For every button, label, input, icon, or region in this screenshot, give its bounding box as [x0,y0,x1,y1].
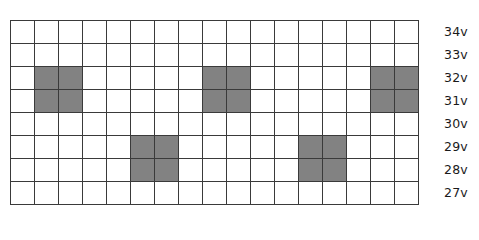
grid-cell-empty[interactable] [251,113,275,136]
grid-cell-empty[interactable] [59,113,83,136]
grid-cell-empty[interactable] [35,136,59,159]
grid-cell-filled[interactable] [59,90,83,113]
grid-cell-empty[interactable] [107,67,131,90]
grid-cell-empty[interactable] [83,113,107,136]
grid-cell-empty[interactable] [371,182,395,205]
grid-cell-filled[interactable] [59,67,83,90]
grid-cell-empty[interactable] [227,136,251,159]
grid-cell-filled[interactable] [299,159,323,182]
grid-cell-empty[interactable] [323,182,347,205]
grid-cell-empty[interactable] [59,21,83,44]
grid-cell-empty[interactable] [323,67,347,90]
grid-cell-empty[interactable] [323,113,347,136]
grid-cell-empty[interactable] [11,136,35,159]
grid-cell-empty[interactable] [35,159,59,182]
grid-cell-empty[interactable] [251,67,275,90]
grid-cell-empty[interactable] [179,159,203,182]
grid-cell-empty[interactable] [347,44,371,67]
grid-cell-empty[interactable] [107,44,131,67]
grid-cell-empty[interactable] [35,182,59,205]
grid-cell-empty[interactable] [83,136,107,159]
grid-cell-empty[interactable] [203,136,227,159]
grid-cell-filled[interactable] [323,136,347,159]
grid-cell-empty[interactable] [59,182,83,205]
grid-cell-empty[interactable] [395,113,419,136]
grid-cell-empty[interactable] [275,44,299,67]
grid-cell-empty[interactable] [155,44,179,67]
grid-cell-empty[interactable] [155,90,179,113]
grid-cell-empty[interactable] [395,182,419,205]
grid-cell-empty[interactable] [299,182,323,205]
grid-cell-filled[interactable] [395,67,419,90]
grid-cell-empty[interactable] [395,159,419,182]
grid-cell-empty[interactable] [227,182,251,205]
grid-cell-empty[interactable] [107,90,131,113]
grid-cell-empty[interactable] [251,136,275,159]
grid-cell-empty[interactable] [227,21,251,44]
grid-cell-empty[interactable] [203,182,227,205]
grid-cell-empty[interactable] [227,113,251,136]
grid-cell-empty[interactable] [347,136,371,159]
grid-cell-empty[interactable] [179,90,203,113]
grid-cell-empty[interactable] [275,136,299,159]
grid-cell-filled[interactable] [227,67,251,90]
grid-cell-empty[interactable] [11,67,35,90]
grid-cell-empty[interactable] [203,21,227,44]
grid-cell-empty[interactable] [347,67,371,90]
grid-cell-empty[interactable] [179,21,203,44]
grid-cell-empty[interactable] [11,21,35,44]
grid-cell-empty[interactable] [275,159,299,182]
grid-cell-empty[interactable] [371,159,395,182]
grid-cell-filled[interactable] [203,90,227,113]
grid-cell-empty[interactable] [371,44,395,67]
grid-cell-empty[interactable] [59,159,83,182]
grid-cell-empty[interactable] [83,182,107,205]
grid-cell-empty[interactable] [299,90,323,113]
grid-cell-empty[interactable] [227,159,251,182]
grid-cell-empty[interactable] [251,44,275,67]
grid-cell-filled[interactable] [371,67,395,90]
grid-cell-empty[interactable] [83,21,107,44]
grid-cell-empty[interactable] [83,90,107,113]
grid-cell-empty[interactable] [11,159,35,182]
grid-cell-empty[interactable] [131,182,155,205]
grid-cell-empty[interactable] [371,21,395,44]
grid-cell-empty[interactable] [251,90,275,113]
grid-cell-empty[interactable] [371,113,395,136]
grid-cell-empty[interactable] [11,90,35,113]
grid-cell-empty[interactable] [323,90,347,113]
grid-cell-filled[interactable] [155,136,179,159]
grid-cell-empty[interactable] [131,44,155,67]
grid-cell-empty[interactable] [251,159,275,182]
grid-cell-empty[interactable] [347,21,371,44]
grid-cell-empty[interactable] [107,182,131,205]
grid-cell-empty[interactable] [275,90,299,113]
grid-cell-empty[interactable] [395,44,419,67]
grid-cell-filled[interactable] [203,67,227,90]
grid-cell-filled[interactable] [227,90,251,113]
grid-cell-filled[interactable] [35,67,59,90]
grid-cell-empty[interactable] [347,159,371,182]
grid-cell-empty[interactable] [35,44,59,67]
grid-cell-empty[interactable] [251,182,275,205]
grid-cell-empty[interactable] [155,182,179,205]
grid-cell-empty[interactable] [275,182,299,205]
grid-cell-empty[interactable] [395,136,419,159]
grid-cell-empty[interactable] [131,113,155,136]
grid-cell-empty[interactable] [299,67,323,90]
grid-cell-filled[interactable] [155,159,179,182]
grid-cell-empty[interactable] [83,44,107,67]
grid-cell-empty[interactable] [371,136,395,159]
grid-cell-filled[interactable] [35,90,59,113]
grid-cell-empty[interactable] [275,67,299,90]
grid-cell-empty[interactable] [11,182,35,205]
grid-cell-empty[interactable] [131,21,155,44]
grid-cell-filled[interactable] [323,159,347,182]
grid-cell-empty[interactable] [323,44,347,67]
grid-cell-empty[interactable] [179,44,203,67]
grid-cell-empty[interactable] [203,44,227,67]
grid-cell-empty[interactable] [299,44,323,67]
grid-cell-empty[interactable] [347,113,371,136]
grid-cell-empty[interactable] [155,21,179,44]
grid-cell-empty[interactable] [35,113,59,136]
